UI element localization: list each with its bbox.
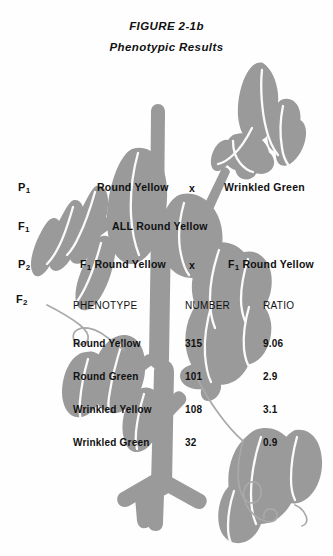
table-header-ratio: RATIO: [263, 300, 294, 311]
table-row: Wrinkled Yellow: [73, 404, 152, 415]
table-cell-ratio: 2.9: [263, 371, 278, 382]
table-cell-number: 315: [185, 338, 202, 349]
table-header-number: NUMBER: [185, 300, 230, 311]
figure-container: FIGURE 2-1b Phenotypic Results P1 F1 P2 …: [0, 0, 333, 556]
table-row: Wrinkled Green: [73, 437, 150, 448]
table-cell-ratio: 9.06: [263, 338, 283, 349]
table-cell-number: 32: [185, 437, 197, 448]
phenotypic-results-table: PHENOTYPE NUMBER RATIO Round Yellow 315 …: [0, 0, 333, 556]
table-cell-ratio: 0.9: [263, 437, 278, 448]
table-row: Round Green: [73, 371, 139, 382]
table-header-phenotype: PHENOTYPE: [73, 300, 137, 311]
table-row: Round Yellow: [73, 338, 141, 349]
table-cell-number: 101: [185, 371, 202, 382]
table-cell-ratio: 3.1: [263, 404, 278, 415]
table-cell-number: 108: [185, 404, 202, 415]
